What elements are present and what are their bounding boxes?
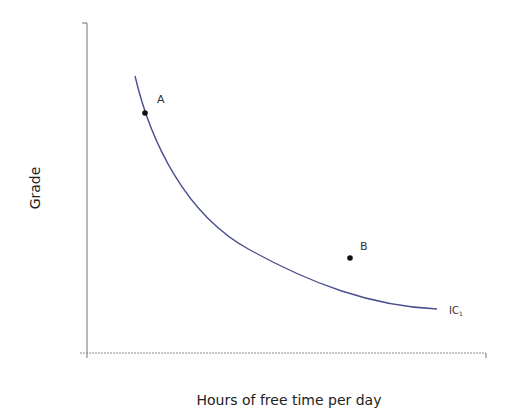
curve-label-ic1: IC1 xyxy=(449,305,463,317)
curve-label-subscript: 1 xyxy=(459,310,463,317)
curve-label-main: IC xyxy=(449,305,459,316)
y-axis-title: Grade xyxy=(27,167,43,210)
point-b-label: B xyxy=(360,240,368,253)
point-a-marker xyxy=(142,110,148,116)
chart: A B IC1 Grade Hours of free time per day xyxy=(0,0,507,414)
x-axis xyxy=(80,353,486,358)
y-axis xyxy=(82,23,87,358)
indifference-curve-ic1 xyxy=(135,76,437,309)
point-a-label: A xyxy=(157,93,165,106)
x-axis-title: Hours of free time per day xyxy=(196,392,381,408)
point-b-marker xyxy=(347,255,353,261)
